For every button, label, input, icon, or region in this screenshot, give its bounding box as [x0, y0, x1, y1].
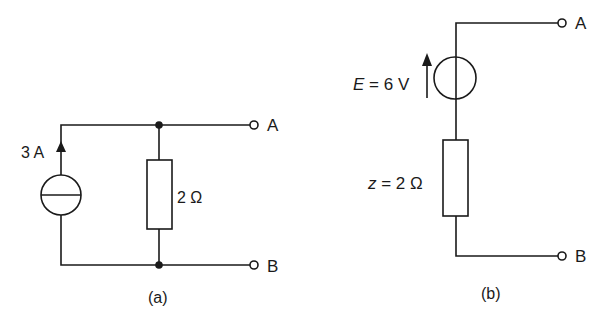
terminal-b-label: B [267, 257, 278, 276]
junction-dot-top [155, 121, 163, 129]
voltage-arrow-icon [422, 53, 432, 98]
current-source-icon [41, 175, 81, 215]
terminal-a-label: A [267, 116, 279, 135]
resistor-icon [147, 160, 172, 229]
impedance-icon [443, 140, 468, 216]
terminal-b-label: B [575, 247, 586, 266]
current-arrow-icon [56, 141, 66, 152]
diagram-canvas: 3 A 2 Ω A B (a) E = 6 V z = 2 Ω [0, 0, 605, 328]
wire-b-top [456, 23, 558, 140]
wire-b-bottom [456, 216, 558, 256]
impedance-label: z = 2 Ω [367, 174, 423, 193]
voltage-source-label: E = 6 V [353, 75, 410, 94]
terminal-a-icon [250, 121, 258, 129]
terminal-a-icon [558, 19, 566, 27]
junction-dot-bottom [155, 261, 163, 269]
resistor-label: 2 Ω [177, 189, 202, 206]
terminal-b-icon [250, 261, 258, 269]
voltage-source-icon [434, 57, 476, 99]
terminal-b-icon [558, 252, 566, 260]
circuit-b: E = 6 V z = 2 Ω A B (b) [353, 14, 587, 302]
circuit-a: 3 A 2 Ω A B (a) [21, 116, 279, 306]
caption-a: (a) [148, 289, 168, 306]
current-source-label: 3 A [21, 144, 44, 161]
terminal-a-label: A [575, 14, 587, 33]
caption-b: (b) [481, 285, 501, 302]
